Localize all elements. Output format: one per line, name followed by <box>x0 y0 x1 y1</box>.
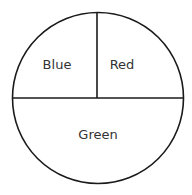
slice-label-red: Red <box>110 57 135 72</box>
pie-chart: Blue Red Green <box>0 0 192 195</box>
slice-label-green: Green <box>78 127 117 142</box>
slice-label-blue: Blue <box>43 57 72 72</box>
